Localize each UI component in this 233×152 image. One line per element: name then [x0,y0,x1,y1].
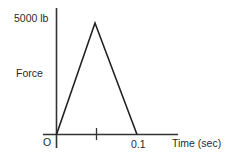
origin-label: O [43,136,51,148]
x-tick-label: 0.1 [131,138,146,150]
x-axis-label: Time (sec) [172,137,221,149]
y-max-label: 5000 lb [14,12,48,24]
force-triangle-curve [57,23,138,135]
y-axis-label: Force [16,67,43,79]
